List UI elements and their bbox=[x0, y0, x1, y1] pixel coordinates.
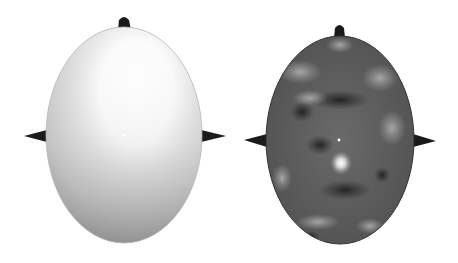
right-head-map bbox=[244, 25, 436, 244]
right-center-marker bbox=[338, 139, 341, 142]
figure-canvas bbox=[0, 0, 458, 263]
left-ear-left-icon bbox=[24, 130, 47, 142]
left-center-marker bbox=[123, 134, 126, 137]
left-head-map bbox=[24, 17, 226, 243]
left-ear-right-icon bbox=[201, 130, 226, 142]
right-ear-left-icon bbox=[244, 134, 267, 147]
figure bbox=[0, 0, 458, 263]
right-ear-right-icon bbox=[413, 134, 436, 147]
